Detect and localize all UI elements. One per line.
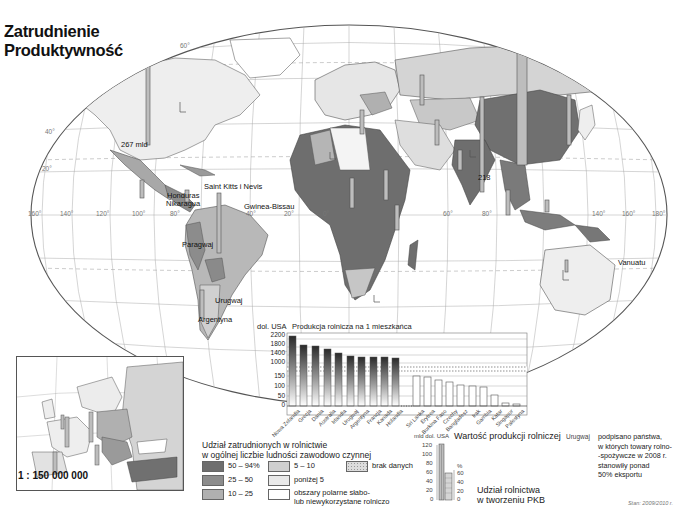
lon-label: 160° (622, 210, 635, 217)
value-tick: 20 (426, 487, 433, 493)
y-tick: 50 (261, 392, 285, 399)
legend-label-25-50: 25 – 50 (228, 476, 253, 485)
polar-line-2: lub niewykorzystane rolniczo (294, 498, 389, 507)
pct-unit: % (457, 463, 462, 469)
legend-label-below-5: poniżej 5 (294, 476, 324, 485)
swatch-50-94 (202, 461, 224, 472)
legend-title-line-1: Udział zatrudnionych w rolnictwie (202, 440, 371, 450)
gdp-line-2: w tworzeniu PKB (477, 495, 545, 505)
lon-label: 80° (170, 210, 180, 217)
lon-label: 0° (323, 210, 329, 217)
lon-label: 180° (652, 210, 665, 217)
map-scale: 1 : 150 000 000 (18, 470, 88, 481)
lon-label: 160° (28, 210, 41, 217)
legend-label-no-data: brak danych (372, 462, 413, 471)
lon-label: 140° (60, 210, 73, 217)
y-tick: 100 (261, 382, 285, 389)
swatch-polar (268, 489, 290, 500)
pct-tick: 40 (457, 479, 464, 485)
label-nikaragua: Nikaragua (166, 199, 200, 208)
chart-title: Produkcja rolnicza na 1 mieszkańca (292, 322, 412, 331)
lat-label: 20° (42, 165, 52, 172)
y-tick: 1000 (261, 358, 285, 365)
per-capita-chart-frame (287, 333, 527, 415)
lon-label: 120° (96, 210, 109, 217)
lon-label: 100° (132, 210, 145, 217)
export-line-1: podpisano państwa, (598, 432, 672, 442)
export-line-5: 50% eksportu (598, 470, 672, 480)
value-tick: 40 (426, 478, 433, 484)
y-tick: 1400 (261, 349, 285, 356)
lon-label: 40° (246, 210, 256, 217)
y-tick: 2200 (261, 331, 285, 338)
legend-title-line-2: w ogólnej liczbie ludności zawodowo czyn… (202, 450, 371, 460)
legend-label-50-94: 50 – 94% (228, 462, 260, 471)
label-urugwaj: Urugwaj (215, 296, 243, 305)
value-chart-title: Wartość produkcji rolniczej (454, 431, 561, 441)
value-tick: 120 (422, 442, 432, 448)
export-note: podpisano państwa, w których towary roln… (598, 432, 672, 480)
label-vanuatu: Vanuatu (618, 258, 645, 267)
swatch-no-data (346, 461, 368, 472)
export-line-4: stanowiły ponad (598, 461, 672, 471)
swatch-10-25 (202, 489, 224, 500)
lon-label: 60° (443, 210, 453, 217)
pct-tick: 20 (457, 488, 464, 494)
lon-label: 80° (482, 210, 492, 217)
swatch-below-5 (268, 475, 290, 486)
export-line-2: w których towary rolno- (598, 442, 672, 452)
legend-label-5-10: 5 – 10 (294, 462, 315, 471)
label-usa: 267 mld (121, 140, 148, 149)
y-tick: 0 (261, 401, 285, 408)
value-tick: 0 (430, 496, 433, 502)
y-tick: 1800 (261, 340, 285, 347)
swatch-5-10 (268, 461, 290, 472)
legend-label-polar: obszary polarne słabo- lub niewykorzysta… (294, 489, 389, 506)
label-saint-kitts: Saint Kitts i Nevis (204, 182, 262, 191)
label-india: 218 (478, 173, 491, 182)
lon-label: 140° (592, 210, 605, 217)
value-unit-label: mld dol. USA (414, 433, 449, 439)
pct-tick: 0 (457, 496, 460, 502)
y-tick: 150 (261, 372, 285, 379)
gdp-line-1: Udział rolnictwa (477, 485, 545, 495)
lat-label: 60° (180, 42, 190, 49)
chart-unit-label: dol. USA (257, 322, 287, 331)
data-date: Stan: 2009/2010 r. (628, 500, 673, 506)
value-tick: 80 (426, 460, 433, 466)
label-argentyna: Argentyna (198, 315, 232, 324)
legend-title: Udział zatrudnionych w rolnictwie w ogól… (202, 440, 371, 460)
label-paragwaj: Paragwaj (182, 240, 213, 249)
export-example-label: Urugwaj (566, 433, 590, 440)
swatch-25-50 (202, 475, 224, 486)
legend-label-10-25: 10 – 25 (228, 490, 253, 499)
lat-label: 40° (45, 128, 55, 135)
export-line-3: -spożywcze w 2008 r. (598, 451, 672, 461)
lon-label: 20° (284, 210, 294, 217)
value-tick: 100 (422, 451, 432, 457)
value-tick: 60 (426, 469, 433, 475)
pct-tick: 60 (457, 470, 464, 476)
gdp-share-label: Udział rolnictwa w tworzeniu PKB (477, 485, 545, 505)
value-chart-legend (437, 444, 454, 500)
